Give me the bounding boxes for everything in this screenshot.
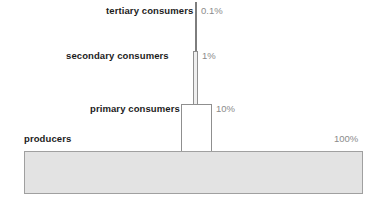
secondary-consumers-bar — [193, 51, 198, 105]
energy-pyramid-diagram: tertiary consumers 0.1% secondary consum… — [0, 0, 387, 207]
primary-consumers-label: primary consumers — [90, 103, 180, 114]
tertiary-consumers-percent: 0.1% — [201, 5, 223, 16]
producers-label: producers — [24, 133, 71, 144]
producers-bar — [24, 151, 363, 194]
primary-consumers-bar — [181, 104, 212, 152]
tertiary-consumers-bar — [195, 2, 197, 52]
primary-consumers-percent: 10% — [216, 103, 235, 114]
producers-percent: 100% — [334, 133, 358, 144]
secondary-consumers-percent: 1% — [202, 50, 216, 61]
tertiary-consumers-label: tertiary consumers — [106, 5, 193, 16]
secondary-consumers-label: secondary consumers — [66, 50, 169, 61]
